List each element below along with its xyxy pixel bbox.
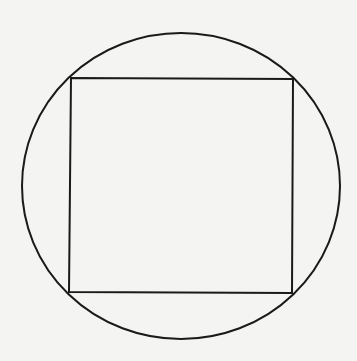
inscribed-rectangle — [69, 78, 293, 293]
diagram-figure — [0, 0, 357, 361]
diagram-canvas — [0, 0, 357, 361]
